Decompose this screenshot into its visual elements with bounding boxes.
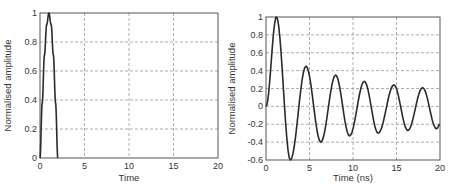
x-tick-label: 15 [168,161,178,171]
x-tick-label: 10 [124,161,134,171]
y-tick-label: 1 [32,8,37,18]
x-tick-label: 0 [37,161,42,171]
y-tick-label: -0.4 [247,137,263,147]
y-tick-label: 0.8 [250,30,263,40]
y-tick-label: 0.2 [250,84,263,94]
y-tick-label: 0.6 [24,66,37,76]
y-tick-label: 0.4 [24,95,37,105]
y-tick-label: 1 [258,12,263,22]
x-tick-label: 0 [263,163,268,173]
x-axis-label: Time [119,172,140,183]
y-tick-label: 0.4 [250,66,263,76]
data-series-line [40,13,58,158]
x-tick-label: 20 [435,163,445,173]
x-axis-label: Time (ns) [333,172,373,183]
y-tick-label: 0.6 [250,48,263,58]
left-plot: 0510152000.20.40.60.81TimeNormalised amp… [2,8,223,183]
y-tick-label: 0 [32,153,37,163]
y-axis-label: Normalised amplitude [2,40,13,132]
x-tick-label: 5 [82,161,87,171]
y-tick-label: 0.8 [24,37,37,47]
chart-canvas: 0510152000.20.40.60.81TimeNormalised amp… [0,0,456,191]
y-axis-label: Normalised amplitude [226,43,237,135]
y-tick-label: -0.6 [247,155,263,165]
x-tick-label: 15 [391,163,401,173]
y-tick-label: 0 [258,101,263,111]
x-tick-label: 20 [213,161,223,171]
y-tick-label: 0.2 [24,124,37,134]
y-tick-label: -0.2 [247,119,263,129]
right-plot: 05101520-0.6-0.4-0.200.20.40.60.81Time (… [226,12,445,183]
x-tick-label: 5 [307,163,312,173]
